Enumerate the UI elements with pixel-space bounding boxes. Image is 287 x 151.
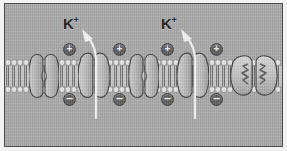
diagram-frame: + + + + – – – – [4,3,283,147]
membrane-diagram-figure: + + + + – – – – [0,0,287,151]
ion-label-potassium-2: K+ [161,16,177,31]
charge-badge-negative: – [161,93,174,106]
charge-badge-positive: + [161,43,174,56]
charge-badge-negative: – [210,93,223,106]
charge-badge-positive: + [63,43,76,56]
ion-charge: + [172,15,177,25]
ion-symbol: K [63,15,74,32]
channel-protein-closed-2 [129,53,159,99]
ion-charge: + [74,15,79,25]
ion-label-potassium-1: K+ [63,16,79,31]
charge-badge-positive: + [113,43,126,56]
ion-symbol: K [161,15,172,32]
potassium-channel-open-2 [177,51,209,99]
charge-badge-positive: + [210,43,223,56]
charge-badge-negative: – [63,93,76,106]
potassium-channel-open-1 [78,51,110,99]
charge-badge-negative: – [113,93,126,106]
channel-protein-closed-1 [29,53,59,99]
diagram-scene: + + + + – – – – [5,4,282,146]
transporter-protein-folded [230,52,278,98]
